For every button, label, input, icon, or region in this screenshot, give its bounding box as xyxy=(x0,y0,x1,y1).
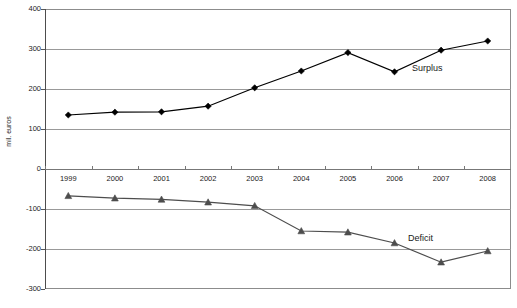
data-point-diamond xyxy=(391,69,397,75)
data-point-diamond xyxy=(65,112,71,118)
data-point-diamond xyxy=(112,109,118,115)
series-line xyxy=(68,196,487,262)
series-line xyxy=(68,41,487,115)
data-point-diamond xyxy=(158,109,164,115)
data-series-layer xyxy=(0,0,517,308)
data-point-diamond xyxy=(485,38,491,44)
data-point-diamond xyxy=(205,103,211,109)
series-label-surplus: Surplus xyxy=(412,63,443,73)
data-point-diamond xyxy=(438,47,444,53)
data-point-diamond xyxy=(298,68,304,74)
series-deficit xyxy=(65,192,491,265)
data-point-diamond xyxy=(345,50,351,56)
data-point-diamond xyxy=(252,85,258,91)
chart-container: 4003002001000-100-200-300 mil. euros 199… xyxy=(0,0,517,308)
series-label-deficit: Deficit xyxy=(408,233,433,243)
series-surplus xyxy=(65,38,491,118)
data-point-triangle xyxy=(484,248,491,254)
